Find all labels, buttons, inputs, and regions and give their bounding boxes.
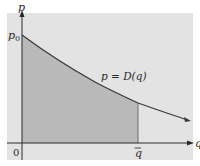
origin-label: 0 (13, 147, 19, 158)
p-axis-label: p (18, 1, 25, 14)
q-axis-label: q (195, 137, 200, 150)
demand-curve-chart: p q p0 0 q p = D(q) (0, 0, 200, 166)
qbar-label: q (135, 147, 142, 160)
p0-subscript: 0 (15, 34, 20, 43)
curve-label: p = D(q) (101, 70, 147, 82)
p0-main: p (8, 29, 15, 42)
